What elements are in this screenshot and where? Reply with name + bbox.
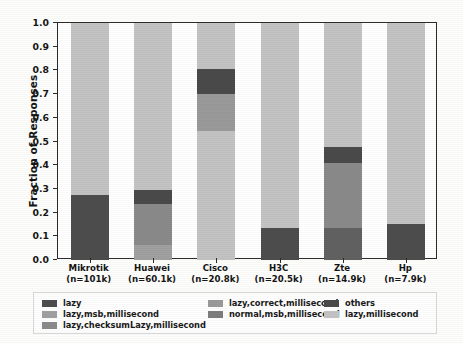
y-tick-label: 0.3 xyxy=(23,182,49,193)
bar-stack xyxy=(197,23,235,258)
y-tick-label: 0.4 xyxy=(23,159,49,170)
bar-hp[interactable] xyxy=(387,23,425,258)
vendor-sample-count: (n=7.9k) xyxy=(359,274,451,285)
y-tick-label: 0.7 xyxy=(23,88,49,99)
bar-stack xyxy=(261,23,299,258)
legend-color-swatch xyxy=(208,311,223,318)
vendor-name: Huawei xyxy=(134,263,170,273)
legend-color-swatch xyxy=(42,311,57,318)
x-tick-mark xyxy=(216,258,217,263)
bar-segment[interactable] xyxy=(387,224,425,260)
bar-segment[interactable] xyxy=(324,228,362,260)
x-tick-mark xyxy=(280,258,281,263)
x-tick-mark xyxy=(406,258,407,263)
legend-color-swatch xyxy=(324,300,339,307)
x-tick-mark xyxy=(153,258,154,263)
vendor-name: Hp xyxy=(399,263,412,273)
bar-segment[interactable] xyxy=(134,23,172,190)
bar-segment[interactable] xyxy=(324,147,362,162)
bar-huawei[interactable] xyxy=(134,23,172,258)
legend-item[interactable]: lazy xyxy=(42,298,81,308)
y-tick-label: 0.9 xyxy=(23,40,49,51)
bar-h3c[interactable] xyxy=(261,23,299,258)
y-tick-label: 0.2 xyxy=(23,206,49,217)
bar-zte[interactable] xyxy=(324,23,362,258)
y-tick-label: 0.8 xyxy=(23,64,49,75)
legend-label: normal,msb,millisecond xyxy=(229,309,340,319)
bar-stack xyxy=(324,23,362,258)
bar-segment[interactable] xyxy=(324,163,362,228)
legend-item[interactable]: lazy,msb,millisecond xyxy=(42,309,159,319)
legend-label: others xyxy=(345,298,375,308)
bar-segment[interactable] xyxy=(324,23,362,147)
legend-item[interactable]: lazy,checksumLazy,millisecond xyxy=(42,320,206,330)
vendor-name: H3C xyxy=(269,263,288,273)
legend-label: lazy,checksumLazy,millisecond xyxy=(63,320,206,330)
bar-cisco[interactable] xyxy=(197,23,235,258)
legend-item[interactable]: lazy,millisecond xyxy=(324,309,418,319)
bar-segment[interactable] xyxy=(261,228,299,260)
vendor-name: Mikrotik xyxy=(69,263,109,273)
y-tick-label: 0.5 xyxy=(23,135,49,146)
legend-label: lazy,correct,millisecond xyxy=(229,298,339,308)
bar-segment[interactable] xyxy=(197,94,235,131)
bar-mikrotik[interactable] xyxy=(71,23,109,258)
chart-figure: Fraction of Responses 0.00.10.20.30.40.5… xyxy=(0,0,463,343)
bar-segment[interactable] xyxy=(387,23,425,224)
bar-segment[interactable] xyxy=(197,131,235,260)
bar-segment[interactable] xyxy=(134,190,172,204)
legend-color-swatch xyxy=(42,300,57,307)
legend-label: lazy xyxy=(63,298,81,308)
y-tick-mark xyxy=(53,259,58,260)
bar-segment[interactable] xyxy=(71,23,109,195)
bar-stack xyxy=(387,23,425,258)
vendor-name: Cisco xyxy=(203,263,228,273)
y-tick-label: 0.1 xyxy=(23,230,49,241)
plot-area xyxy=(57,22,437,259)
bar-segment[interactable] xyxy=(261,23,299,228)
bar-stack xyxy=(71,23,109,258)
x-tick-mark xyxy=(90,258,91,263)
legend-label: lazy,millisecond xyxy=(345,309,418,319)
chart-legend: lazylazy,msb,millisecondlazy,checksumLaz… xyxy=(33,292,437,334)
x-tick-label-hp: Hp(n=7.9k) xyxy=(359,263,451,284)
legend-color-swatch xyxy=(208,300,223,307)
bar-stack xyxy=(134,23,172,258)
legend-item[interactable]: normal,msb,millisecond xyxy=(208,309,340,319)
bar-segment[interactable] xyxy=(197,69,235,94)
bar-segment[interactable] xyxy=(134,204,172,244)
legend-item[interactable]: others xyxy=(324,298,375,308)
y-tick-label: 0.6 xyxy=(23,111,49,122)
legend-color-swatch xyxy=(324,311,339,318)
stacked-bars-group xyxy=(58,23,436,258)
legend-color-swatch xyxy=(42,322,57,329)
legend-item[interactable]: lazy,correct,millisecond xyxy=(208,298,339,308)
bar-segment[interactable] xyxy=(197,23,235,69)
bar-segment[interactable] xyxy=(71,195,109,260)
y-tick-label: 1.0 xyxy=(23,17,49,28)
legend-label: lazy,msb,millisecond xyxy=(63,309,159,319)
x-tick-mark xyxy=(343,258,344,263)
vendor-name: Zte xyxy=(334,263,350,273)
